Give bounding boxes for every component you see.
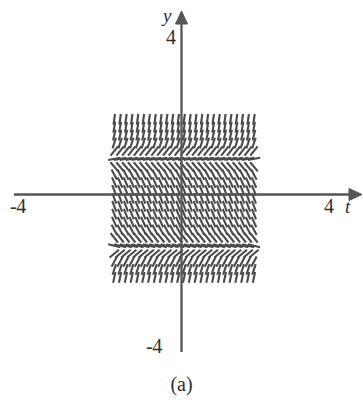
t-axis-tick-label-right: 4 xyxy=(324,196,334,216)
y-axis-tick-label-top: 4 xyxy=(166,27,176,47)
t-axis-name-label: t xyxy=(345,197,350,216)
y-axis-tick-label-bottom: -4 xyxy=(146,336,162,356)
y-axis-name-label: y xyxy=(163,6,171,25)
slope-field-plot xyxy=(0,0,363,370)
t-axis-tick-label-left: -4 xyxy=(10,196,26,216)
arrow-right-icon xyxy=(349,189,362,201)
slope-segment-group xyxy=(108,114,260,283)
figure-caption: (a) xyxy=(0,372,363,396)
slope-field-figure: y t 4 -4 -4 4 (a) xyxy=(0,0,363,413)
axes-group xyxy=(14,11,362,352)
arrow-up-icon xyxy=(176,11,188,24)
plot-area: y t 4 -4 -4 4 xyxy=(0,0,363,370)
